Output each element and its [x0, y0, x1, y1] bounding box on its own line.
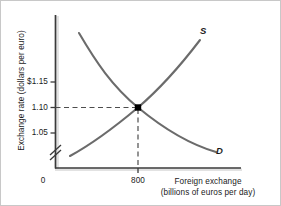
y-tick-label-115: $1.15: [6, 78, 48, 86]
figure-container: Exchange rate (dollars per euro) $1.15 1…: [0, 0, 281, 206]
equilibrium-point-marker: [135, 104, 141, 110]
x-axis-title-line1: Foreign exchange: [136, 176, 280, 187]
x-axis-title: Foreign exchange (billions of euros per …: [136, 176, 280, 198]
x-axis-title-line2: (billions of euros per day): [136, 187, 280, 198]
supply-curve-label: S: [200, 26, 206, 36]
demand-curve-label: D: [216, 146, 223, 156]
y-axis-title: Exchange rate (dollars per euro): [17, 16, 26, 166]
origin-label: 0: [33, 177, 53, 185]
y-tick-label-110: 1.10: [6, 104, 48, 112]
y-tick-label-105: 1.05: [6, 129, 48, 137]
